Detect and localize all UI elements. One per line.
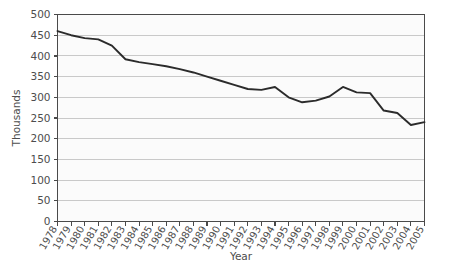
y-axis-tick-label: 150 (30, 153, 50, 165)
y-axis-tick-label: 200 (30, 132, 50, 144)
y-axis-tick-label: 500 (30, 8, 50, 20)
chart-canvas: 0501001502002503003504004505001978197919… (0, 0, 456, 274)
x-axis-title: Year (229, 250, 253, 262)
line-chart: 0501001502002503003504004505001978197919… (0, 0, 456, 274)
y-axis-tick-label: 50 (37, 194, 50, 206)
y-axis-tick-label: 250 (30, 112, 50, 124)
y-axis-tick-label: 100 (30, 174, 50, 186)
y-axis-tick-label: 300 (30, 91, 50, 103)
y-axis-tick-label: 350 (30, 70, 50, 82)
y-axis-tick-label: 400 (30, 50, 50, 62)
y-axis-tick-label: 450 (30, 29, 50, 41)
y-axis-title: Thousands (10, 90, 22, 148)
